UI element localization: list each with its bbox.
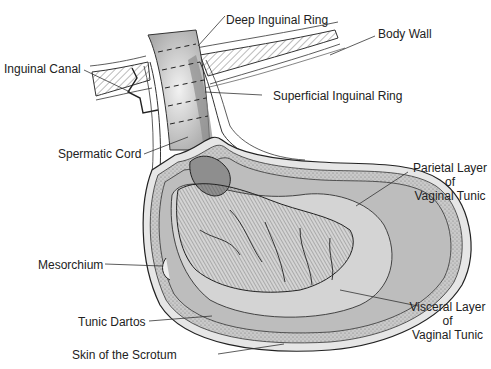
label-parietal-layer: Parietal Layer of Vaginal Tunic (410, 161, 490, 203)
body-wall-left (90, 56, 152, 100)
label-mesorchium: Mesorchium (38, 258, 103, 272)
label-parietal-line3: Vaginal Tunic (410, 189, 490, 203)
label-visceral-line1: Visceral Layer (405, 300, 490, 314)
label-visceral-line2: of (405, 314, 490, 328)
label-tunic-dartos: Tunic Dartos (78, 315, 146, 329)
label-parietal-line1: Parietal Layer (410, 161, 490, 175)
anatomy-diagram: Deep Inguinal Ring Body Wall Inguinal Ca… (0, 0, 491, 369)
label-inguinal-canal: Inguinal Canal (4, 62, 81, 76)
label-body-wall: Body Wall (378, 27, 432, 41)
label-deep-inguinal-ring: Deep Inguinal Ring (226, 13, 328, 27)
label-visceral-line3: Vaginal Tunic (405, 328, 490, 342)
label-superficial-inguinal-ring: Superficial Inguinal Ring (273, 89, 402, 103)
label-parietal-line2: of (410, 175, 490, 189)
label-skin-of-scrotum: Skin of the Scrotum (72, 348, 177, 362)
label-spermatic-cord: Spermatic Cord (58, 147, 141, 161)
body-wall-right (196, 22, 345, 88)
label-visceral-layer: Visceral Layer of Vaginal Tunic (405, 300, 490, 342)
